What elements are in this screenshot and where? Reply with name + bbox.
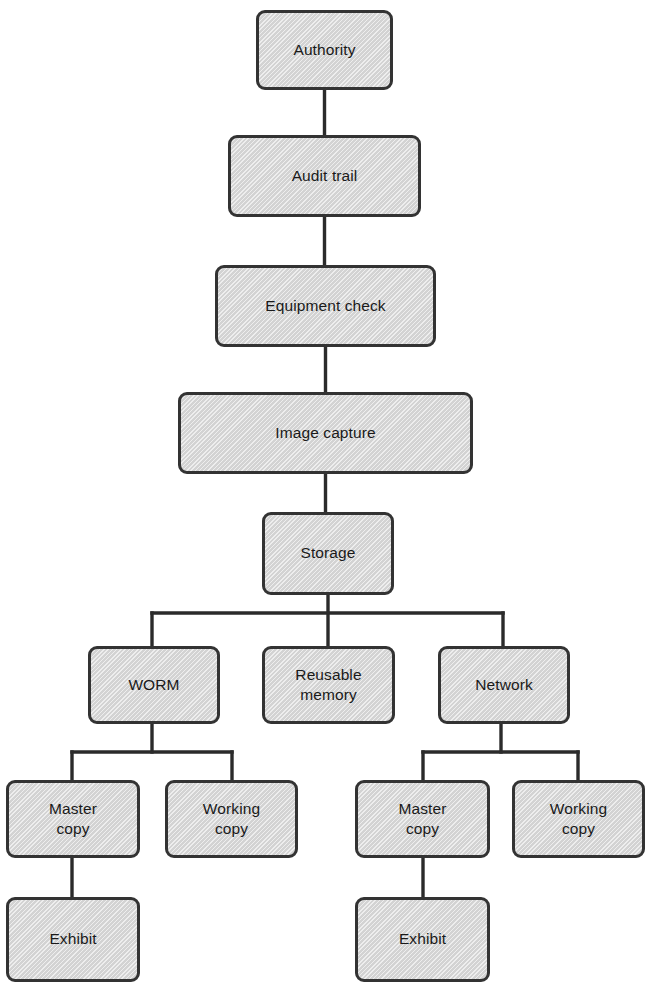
node-label-worm-master-copy: Master copy — [45, 799, 101, 840]
node-label-equipment-check: Equipment check — [261, 296, 389, 316]
node-label-authority: Authority — [289, 40, 359, 60]
node-label-network: Network — [471, 675, 537, 695]
node-label-network-exhibit: Exhibit — [395, 929, 450, 949]
node-network-master-copy[interactable]: Master copy — [355, 780, 490, 858]
node-label-worm-working-copy: Working copy — [199, 799, 264, 840]
node-label-worm-exhibit: Exhibit — [45, 929, 100, 949]
node-label-audit-trail: Audit trail — [288, 166, 362, 186]
node-worm[interactable]: WORM — [88, 646, 220, 724]
node-worm-exhibit[interactable]: Exhibit — [6, 897, 140, 982]
node-label-reusable-memory: Reusable memory — [291, 665, 365, 706]
node-label-network-master-copy: Master copy — [395, 799, 451, 840]
node-image-capture[interactable]: Image capture — [178, 392, 473, 474]
node-audit-trail[interactable]: Audit trail — [228, 135, 421, 217]
node-storage[interactable]: Storage — [262, 512, 394, 595]
node-equipment-check[interactable]: Equipment check — [215, 265, 436, 347]
node-label-storage: Storage — [297, 543, 360, 563]
node-label-worm: WORM — [124, 675, 183, 695]
node-label-network-working-copy: Working copy — [546, 799, 611, 840]
node-label-image-capture: Image capture — [271, 423, 379, 443]
node-worm-master-copy[interactable]: Master copy — [6, 780, 140, 858]
node-network-working-copy[interactable]: Working copy — [512, 780, 645, 858]
node-authority[interactable]: Authority — [256, 10, 393, 90]
node-network-exhibit[interactable]: Exhibit — [355, 897, 490, 982]
node-network[interactable]: Network — [438, 646, 570, 724]
flowchart-canvas: AuthorityAudit trailEquipment checkImage… — [0, 0, 661, 999]
node-reusable-memory[interactable]: Reusable memory — [262, 646, 395, 724]
node-worm-working-copy[interactable]: Working copy — [165, 780, 298, 858]
